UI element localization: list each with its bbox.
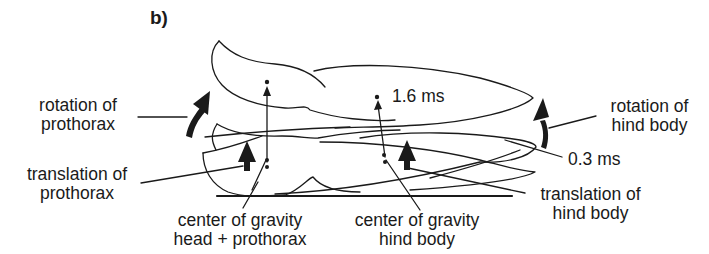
label-translation-of-prothorax: translation of prothorax [12,165,142,203]
cog-arrow-head-prothorax [263,86,271,96]
label-rotation-of-prothorax: rotation of prothorax [18,96,138,134]
rotation-hindbody-arrow-head [533,98,549,121]
panel-label: b) [150,8,168,27]
upper-prothorax-outline [212,41,395,121]
label-rotation-of-hind-body: rotation of hind body [592,97,707,135]
label-translation-of-hind-body: translation of hind body [528,185,653,223]
translation-hindbody-arrow [398,140,416,170]
leader-0.3ms [505,140,562,157]
rotation-prothorax-arrow-shaft [186,108,205,138]
lower-prothorax-outline [212,124,217,150]
label-cog-head-prothorax: center of gravity head + prothorax [160,211,320,249]
cog-arrow-hind [374,100,382,110]
leader-translation-prothorax [141,166,243,183]
figure-panel-b: b) rotation of prothorax translation of … [0,0,709,254]
rotation-hindbody-arrow-shaft [540,120,548,149]
label-cog-hind-body: center of gravity hind body [342,211,492,249]
time-label-0.3ms: 0.3 ms [568,150,621,169]
leader-rotation-hindbody [549,116,596,128]
time-label-1.6ms: 1.6 ms [392,87,445,106]
